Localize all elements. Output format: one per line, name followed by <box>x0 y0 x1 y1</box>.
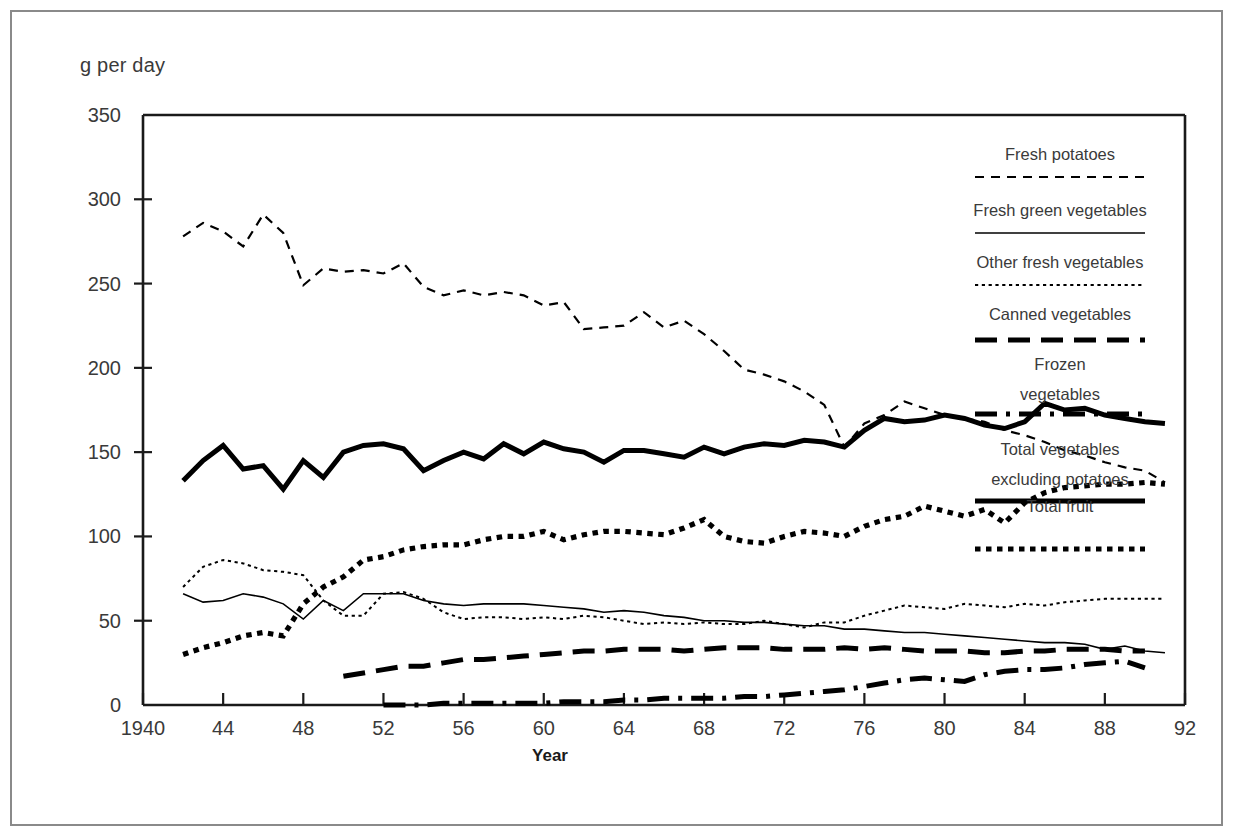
legend-label-other-fresh-vegetables: Other fresh vegetables <box>977 253 1144 271</box>
legend-label-total-vegetables-excluding-potatoes: excluding potatoes <box>991 470 1129 488</box>
y-axis-tick-label: 350 <box>88 104 121 126</box>
legend-label-frozen-vegetables: Frozen <box>1034 355 1085 373</box>
series-line-other-fresh-vegetables <box>183 560 1165 627</box>
x-axis-tick-label: 80 <box>933 717 955 739</box>
x-axis-tick-label: 1940 <box>121 717 166 739</box>
y-axis-tick-label: 0 <box>110 694 121 716</box>
series-line-canned-vegetables <box>343 648 1145 677</box>
x-axis-tick-label: 48 <box>292 717 314 739</box>
y-axis-tick-label: 200 <box>88 357 121 379</box>
legend-label-total-vegetables-excluding-potatoes: Total vegetables <box>1000 440 1119 458</box>
x-axis-tick-label: 60 <box>533 717 555 739</box>
y-axis-tick-label: 250 <box>88 273 121 295</box>
x-axis-tick-label: 72 <box>773 717 795 739</box>
x-axis-tick-label: 52 <box>372 717 394 739</box>
x-axis-tick-label: 64 <box>613 717 635 739</box>
x-axis-tick-label: 44 <box>212 717 234 739</box>
series-line-fresh-green-vegetables <box>183 594 1165 653</box>
series-line-frozen-vegetables <box>383 661 1144 705</box>
series-group <box>183 214 1165 705</box>
x-axis-tick-label: 76 <box>853 717 875 739</box>
y-axis-tick-label: 50 <box>99 610 121 632</box>
line-chart: 0501001502002503003501940444852566064687… <box>0 0 1236 839</box>
axes-group: 0501001502002503003501940444852566064687… <box>88 104 1197 739</box>
y-axis-tick-label: 100 <box>88 525 121 547</box>
y-axis-tick-label: 150 <box>88 441 121 463</box>
x-axis-tick-label: 56 <box>452 717 474 739</box>
legend-label-fresh-potatoes: Fresh potatoes <box>1005 145 1115 163</box>
x-axis-tick-label: 68 <box>693 717 715 739</box>
legend-label-frozen-vegetables: vegetables <box>1020 385 1100 403</box>
chart-page: g per day Year 0501001502002503003501940… <box>0 0 1236 839</box>
x-axis-tick-label: 88 <box>1094 717 1116 739</box>
legend-group: Fresh potatoesFresh green vegetablesOthe… <box>973 145 1146 549</box>
x-axis-tick-label: 84 <box>1014 717 1036 739</box>
x-axis-tick-label: 92 <box>1174 717 1196 739</box>
legend-label-total-fruit: Total fruit <box>1027 497 1094 515</box>
y-axis-tick-label: 300 <box>88 188 121 210</box>
series-line-total-fruit <box>183 482 1165 654</box>
legend-label-fresh-green-vegetables: Fresh green vegetables <box>973 201 1146 219</box>
legend-label-canned-vegetables: Canned vegetables <box>989 305 1131 323</box>
